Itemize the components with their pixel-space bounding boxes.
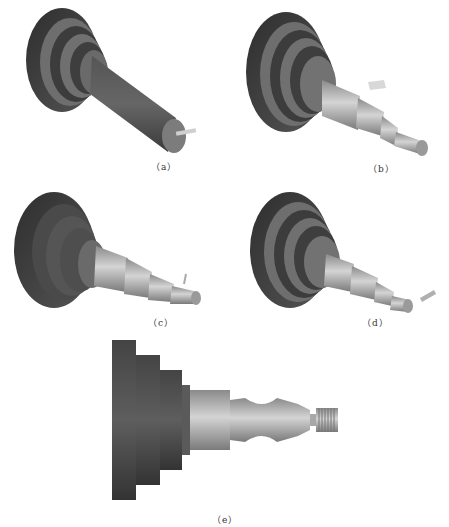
panel-b-part bbox=[246, 12, 428, 156]
caption-d: （d） bbox=[362, 316, 389, 329]
figure-canvas bbox=[0, 0, 449, 527]
panel-e-part bbox=[112, 340, 338, 500]
panel-d-part bbox=[250, 192, 436, 313]
caption-a: （a） bbox=[151, 160, 177, 173]
caption-b: （b） bbox=[368, 162, 395, 175]
panel-c-part bbox=[14, 192, 201, 308]
caption-c: （c） bbox=[148, 316, 174, 329]
panel-a-part bbox=[26, 8, 196, 153]
caption-e: （e） bbox=[212, 513, 238, 526]
